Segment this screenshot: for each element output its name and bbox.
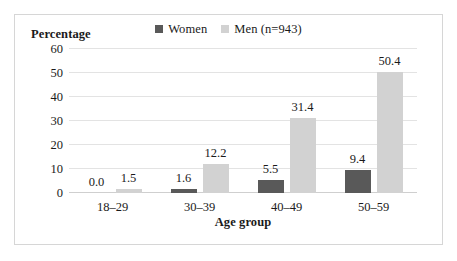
bar-women[interactable]: 1.6 <box>171 49 197 193</box>
bar-rect <box>377 72 403 193</box>
bar-value-label: 5.5 <box>263 162 279 177</box>
bar-group: 9.450.4 <box>330 49 417 193</box>
chart-figure: Women Men (n=943) Percentage 01020304050… <box>14 14 443 245</box>
y-axis-tick-label: 10 <box>51 162 64 177</box>
legend-label-women: Women <box>168 23 207 36</box>
x-axis-tick-label: 40–49 <box>271 200 302 215</box>
bar-value-label: 1.6 <box>176 171 192 186</box>
bar-rect <box>203 164 229 193</box>
y-axis-tick-label: 60 <box>51 42 64 57</box>
y-axis-tick-label: 20 <box>51 138 64 153</box>
plot-area: 01020304050600.01.518–291.612.230–395.53… <box>69 49 417 193</box>
y-axis-tick-label: 40 <box>51 90 64 105</box>
bar-rect <box>171 189 197 193</box>
y-axis-tick-label: 30 <box>51 114 64 129</box>
x-axis-tick-label: 50–59 <box>358 200 389 215</box>
x-axis-tick-label: 30–39 <box>184 200 215 215</box>
x-axis-tick-label: 18–29 <box>97 200 128 215</box>
bar-group: 0.01.5 <box>69 49 156 193</box>
y-axis-tick-label: 0 <box>57 186 63 201</box>
bar-value-label: 12.2 <box>205 146 227 161</box>
y-axis-title: Percentage <box>31 27 91 42</box>
bar-men[interactable]: 1.5 <box>116 49 142 193</box>
legend-label-men: Men (n=943) <box>234 23 302 36</box>
legend-entry-men[interactable]: Men (n=943) <box>221 23 302 36</box>
bar-rect <box>116 189 142 193</box>
bar-women[interactable]: 0.0 <box>84 49 110 193</box>
legend-swatch-men <box>221 25 229 33</box>
legend-entry-women[interactable]: Women <box>155 23 207 36</box>
x-axis-title: Age group <box>69 215 417 230</box>
bar-value-label: 0.0 <box>89 175 105 190</box>
bar-value-label: 1.5 <box>121 171 137 186</box>
bar-rect <box>345 170 371 193</box>
bar-rect <box>258 180 284 193</box>
bar-value-label: 50.4 <box>379 54 401 69</box>
bar-women[interactable]: 5.5 <box>258 49 284 193</box>
bar-group: 1.612.2 <box>156 49 243 193</box>
bar-men[interactable]: 12.2 <box>203 49 229 193</box>
bar-value-label: 9.4 <box>350 152 366 167</box>
bar-men[interactable]: 31.4 <box>290 49 316 193</box>
legend-swatch-women <box>155 25 163 33</box>
bar-rect <box>290 118 316 193</box>
y-axis-tick-label: 50 <box>51 66 64 81</box>
bar-women[interactable]: 9.4 <box>345 49 371 193</box>
bar-value-label: 31.4 <box>292 100 314 115</box>
bar-men[interactable]: 50.4 <box>377 49 403 193</box>
bar-group: 5.531.4 <box>243 49 330 193</box>
